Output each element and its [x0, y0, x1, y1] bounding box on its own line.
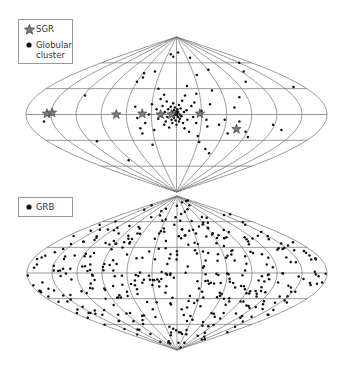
data-point — [160, 230, 163, 233]
data-point — [76, 312, 79, 315]
data-point — [113, 229, 116, 232]
data-point — [261, 275, 264, 278]
data-point — [229, 213, 232, 216]
legend-top: SGR Globular cluster — [18, 19, 73, 64]
data-point — [44, 255, 47, 258]
data-point — [183, 127, 186, 130]
data-point — [57, 270, 60, 273]
data-point — [204, 148, 207, 151]
data-point — [93, 309, 96, 312]
data-point — [139, 271, 142, 274]
data-point — [141, 319, 144, 322]
data-point — [249, 250, 252, 253]
data-point — [127, 159, 130, 162]
data-point — [59, 275, 62, 278]
data-point — [85, 253, 88, 256]
data-point — [207, 227, 210, 230]
data-point — [193, 241, 196, 244]
data-point — [184, 271, 187, 274]
data-point — [196, 135, 199, 138]
data-point — [261, 253, 264, 256]
data-point — [41, 281, 44, 284]
data-point — [164, 292, 167, 295]
data-point — [69, 268, 72, 271]
data-point — [234, 326, 237, 329]
sgr-star-marker — [195, 109, 205, 118]
data-point — [159, 98, 162, 101]
data-point — [181, 99, 184, 102]
data-point — [91, 287, 94, 290]
sgr-star-marker — [232, 124, 242, 133]
data-point — [216, 260, 219, 263]
data-point — [193, 302, 196, 305]
data-point — [160, 271, 163, 274]
data-point — [216, 296, 219, 299]
data-point — [89, 230, 92, 233]
data-point — [265, 263, 268, 266]
legend-label-line1: Globular — [36, 40, 72, 50]
data-point — [293, 249, 296, 252]
dot-icon — [22, 40, 36, 48]
data-point — [121, 275, 124, 278]
data-point — [173, 109, 176, 112]
data-point — [118, 294, 121, 297]
data-point — [186, 118, 189, 121]
data-point — [93, 279, 96, 282]
data-point — [180, 237, 183, 240]
data-point — [164, 218, 167, 221]
data-point — [169, 342, 172, 345]
data-point — [213, 282, 216, 285]
data-point — [136, 232, 139, 235]
data-point — [141, 282, 144, 285]
data-point — [257, 235, 260, 238]
data-point — [165, 272, 168, 275]
data-point — [222, 312, 225, 315]
data-point — [112, 269, 115, 272]
data-point — [179, 118, 182, 121]
data-point — [123, 241, 126, 244]
data-point — [59, 269, 62, 272]
data-point — [120, 296, 123, 299]
data-point — [256, 292, 259, 295]
data-point — [138, 227, 141, 230]
data-point — [154, 238, 157, 241]
data-point — [262, 303, 265, 306]
data-point — [154, 70, 157, 73]
data-point — [238, 120, 241, 123]
data-point — [244, 255, 247, 258]
data-point — [189, 56, 192, 59]
data-point — [72, 235, 75, 238]
data-point — [114, 275, 117, 278]
data-point — [76, 308, 79, 311]
data-point — [243, 285, 246, 288]
data-point — [116, 297, 119, 300]
data-point — [157, 87, 160, 90]
data-point — [170, 334, 173, 337]
data-point — [154, 316, 157, 319]
data-point — [156, 278, 159, 281]
data-point — [207, 68, 210, 71]
data-point — [228, 300, 231, 303]
data-point — [135, 274, 138, 277]
data-point — [127, 234, 130, 237]
data-point — [281, 272, 284, 275]
data-point — [186, 208, 189, 211]
legend-item-sgr: SGR — [22, 24, 69, 35]
data-point — [188, 204, 191, 207]
data-point — [148, 250, 151, 253]
data-point — [89, 287, 92, 290]
data-point — [196, 280, 199, 283]
data-point — [205, 235, 208, 238]
data-point — [134, 284, 137, 287]
data-point — [81, 306, 84, 309]
data-point — [211, 233, 214, 236]
data-point — [223, 214, 226, 217]
map-top-points — [42, 51, 295, 161]
data-point — [277, 281, 280, 284]
data-point — [167, 340, 170, 343]
data-point — [158, 232, 161, 235]
data-point — [114, 220, 117, 223]
data-point — [170, 53, 173, 56]
data-point — [174, 216, 177, 219]
data-point — [130, 283, 133, 286]
